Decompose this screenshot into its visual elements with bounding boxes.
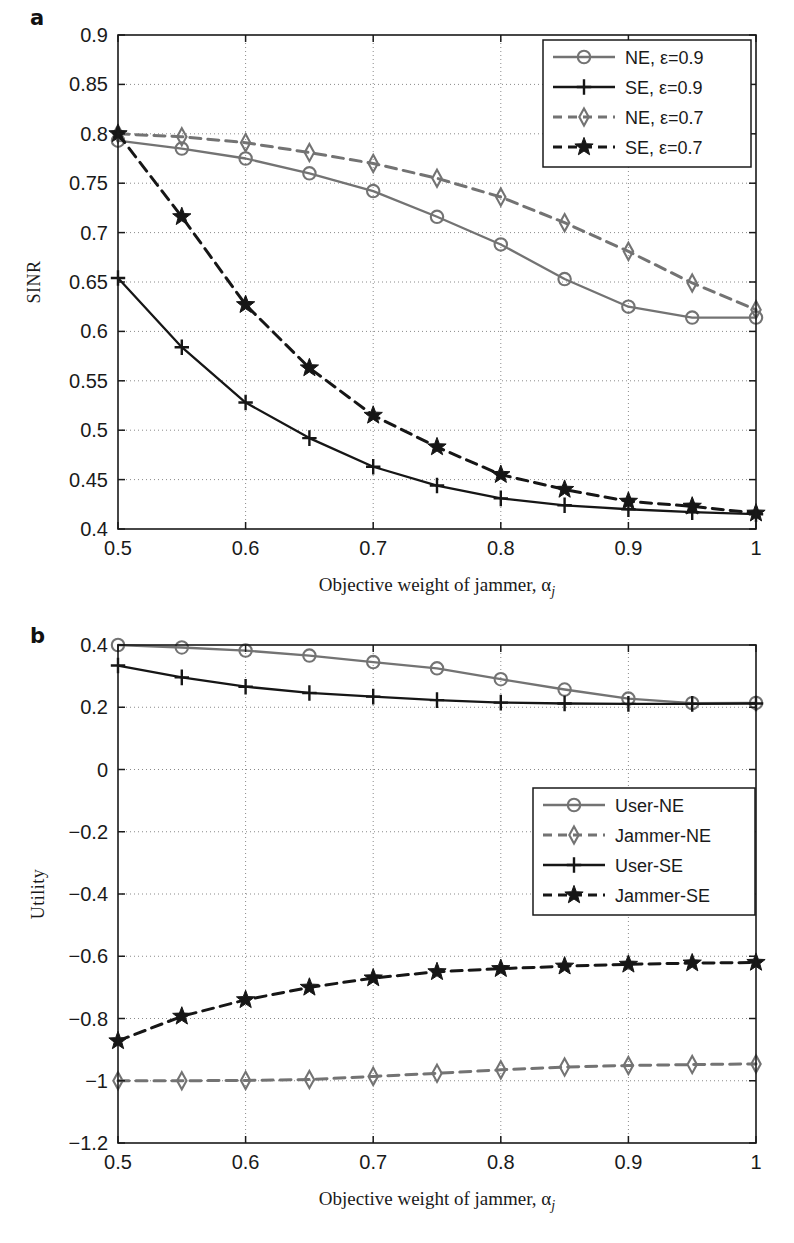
panel-label-b: b: [30, 624, 45, 648]
legend-item-label: SE, ε=0.7: [625, 138, 703, 158]
x-axis-title-main: Objective weight of jammer, α: [319, 1188, 551, 1209]
x-tick-label: 0.5: [104, 537, 132, 559]
y-tick-label: 0.55: [69, 370, 108, 392]
marker-star: [555, 957, 573, 974]
data-series: [109, 953, 765, 1049]
y-tick-label: 0.4: [80, 634, 108, 656]
y-tick-label: 0.85: [69, 73, 108, 95]
marker-plus: [430, 692, 444, 708]
y-tick-label: 0.6: [80, 320, 108, 342]
x-tick-label: 0.7: [359, 1151, 387, 1173]
x-tick-label: 1: [750, 537, 761, 559]
x-tick-label: 1: [750, 1151, 761, 1173]
x-axis-title: Objective weight of jammer, αj: [319, 1188, 555, 1213]
chart-panel-a: a 0.50.60.70.80.910.40.450.50.550.60.650…: [0, 0, 794, 620]
data-series: [113, 1055, 760, 1089]
marker-star: [428, 962, 446, 979]
y-tick-label: 0.7: [80, 222, 108, 244]
legend-item-label: SE, ε=0.9: [625, 78, 703, 98]
marker-star: [236, 990, 254, 1007]
marker-star: [555, 480, 573, 497]
marker-plus: [366, 689, 380, 705]
series-line: [118, 134, 756, 513]
marker-plus: [175, 670, 189, 686]
data-series-group: [109, 124, 765, 522]
marker-plus: [366, 459, 380, 475]
legend-item-label: User-NE: [615, 796, 684, 816]
y-tick-label: 0.75: [69, 172, 108, 194]
legend-item-label: NE, ε=0.7: [625, 108, 704, 128]
figure-container: a 0.50.60.70.80.910.40.450.50.550.60.650…: [0, 0, 794, 1243]
marker-star: [364, 968, 382, 985]
y-tick-label: 0.5: [80, 419, 108, 441]
marker-plus: [557, 696, 571, 712]
data-series: [111, 270, 763, 522]
marker-plus: [557, 497, 571, 513]
y-tick-label: 0: [97, 759, 108, 781]
y-tick-label: −0.4: [69, 883, 108, 905]
y-tick-label: 0.45: [69, 469, 108, 491]
marker-plus: [494, 695, 508, 711]
legend-item-label: User-SE: [615, 856, 683, 876]
legend-item-label: Jammer-NE: [615, 826, 711, 846]
legend-item-label: NE, ε=0.9: [625, 48, 704, 68]
marker-star: [364, 406, 382, 423]
y-tick-label: 0.4: [80, 518, 108, 540]
y-tick-label: 0.8: [80, 123, 108, 145]
legend: User-NEJammer-NEUser-SEJammer-SE: [533, 788, 755, 915]
marker-plus: [302, 685, 316, 701]
x-tick-label: 0.9: [614, 1151, 642, 1173]
data-series: [109, 124, 765, 521]
x-tick-label: 0.8: [487, 537, 515, 559]
marker-star: [428, 437, 446, 454]
x-tick-label: 0.6: [232, 1151, 260, 1173]
x-tick-label: 0.9: [614, 537, 642, 559]
y-axis-title: SINR: [24, 260, 44, 303]
y-tick-label: 0.9: [80, 24, 108, 46]
y-tick-label: −0.2: [69, 821, 108, 843]
marker-plus: [238, 679, 252, 695]
data-series: [111, 658, 763, 712]
x-axis-title-main: Objective weight of jammer, α: [319, 574, 551, 595]
marker-plus: [302, 430, 316, 446]
marker-star: [173, 1007, 191, 1024]
x-tick-label: 0.8: [487, 1151, 515, 1173]
y-tick-label: −1: [85, 1070, 108, 1092]
x-tick-label: 0.6: [232, 537, 260, 559]
chart-panel-b: b 0.50.60.70.80.91−1.2−1−0.8−0.6−0.4−0.2…: [0, 620, 794, 1243]
panel-a-plot: 0.50.60.70.80.910.40.450.50.550.60.650.7…: [0, 0, 794, 620]
panel-b-plot: 0.50.60.70.80.91−1.2−1−0.8−0.6−0.4−0.200…: [0, 620, 794, 1243]
legend-item-label: Jammer-SE: [615, 886, 710, 906]
y-axis-title: Utility: [28, 869, 48, 920]
y-tick-label: 0.65: [69, 271, 108, 293]
marker-star: [300, 978, 318, 995]
y-tick-label: −0.8: [69, 1008, 108, 1030]
x-tick-label: 0.7: [359, 537, 387, 559]
x-axis-title: Objective weight of jammer, αj: [319, 574, 555, 599]
marker-plus: [494, 491, 508, 507]
y-tick-label: −0.6: [69, 945, 108, 967]
y-tick-label: 0.2: [80, 696, 108, 718]
x-tick-label: 0.5: [104, 1151, 132, 1173]
panel-label-a: a: [30, 6, 44, 30]
y-tick-label: −1.2: [69, 1132, 108, 1154]
legend: NE, ε=0.9SE, ε=0.9NE, ε=0.7SE, ε=0.7: [543, 40, 751, 167]
